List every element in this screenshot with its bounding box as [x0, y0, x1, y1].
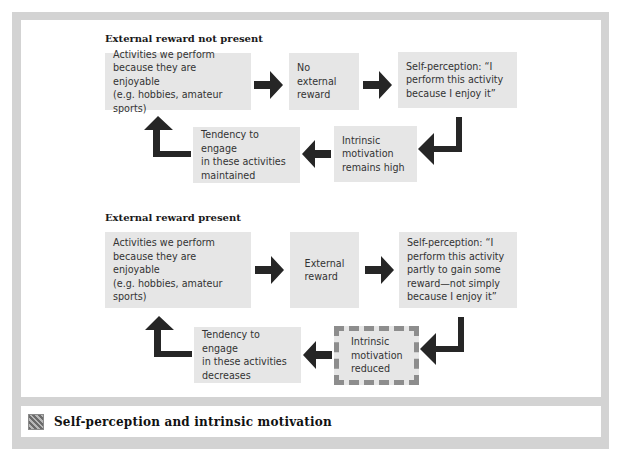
elbow-arrow-left-up-icon	[144, 116, 192, 158]
box-line: in these activities	[202, 355, 293, 369]
box-line: partly to gain some	[407, 263, 504, 277]
box-line: Self-perception: “I	[407, 236, 504, 250]
frame-right-border	[601, 12, 609, 449]
elbow-arrow-left-up-icon	[145, 316, 193, 358]
arrow-right-icon	[365, 256, 395, 284]
box-line: (e.g. hobbies, amateur sports)	[113, 88, 243, 115]
box-tendency: Tendency to engage in these activities m…	[193, 127, 300, 183]
box-line: Intrinsic	[351, 335, 403, 349]
box-line: Intrinsic	[342, 134, 405, 148]
elbow-arrow-down-left-icon	[420, 317, 466, 367]
box-line: Tendency to engage	[201, 128, 292, 155]
arrow-right-icon	[363, 71, 393, 99]
box-line: because I enjoy it”	[406, 87, 503, 101]
box-self-perception: Self-perception: “I perform this activit…	[398, 52, 517, 108]
box-line: reward	[305, 270, 345, 284]
box-activities: Activities we perform because they are e…	[105, 53, 251, 110]
box-line: because I enjoy it”	[407, 290, 504, 304]
frame-bottom-border	[12, 437, 609, 449]
box-line: (e.g. hobbies, amateur sports)	[113, 277, 243, 304]
frame-top-border	[12, 12, 609, 20]
box-intrinsic-highlighted: Intrinsic motivation reduced	[334, 326, 419, 385]
box-line: remains high	[342, 161, 405, 175]
box-line: decreases	[202, 369, 293, 383]
box-intrinsic: Intrinsic motivation remains high	[334, 126, 417, 182]
arrow-right-icon	[255, 256, 285, 284]
box-line: motivation	[351, 349, 403, 363]
arrow-right-icon	[254, 71, 284, 99]
box-line: perform this activity	[406, 73, 503, 87]
box-line: because they are enjoyable	[113, 61, 243, 88]
box-tendency: Tendency to engage in these activities d…	[194, 327, 301, 383]
box-line: Tendency to engage	[202, 328, 293, 355]
box-line: reduced	[351, 362, 403, 376]
box-self-perception: Self-perception: “I perform this activit…	[399, 232, 517, 308]
box-line: Activities we perform	[113, 236, 243, 250]
section-title: External reward not present	[105, 33, 263, 44]
arrow-left-icon	[302, 140, 332, 168]
box-line: External	[305, 257, 345, 271]
box-line: No external	[297, 61, 351, 88]
box-line: Activities we perform	[113, 48, 243, 62]
box-line: maintained	[201, 169, 292, 183]
caption-text: Self-perception and intrinsic motivation	[54, 415, 332, 429]
frame-left-border	[12, 12, 21, 449]
box-line: motivation	[342, 147, 405, 161]
section-title: External reward present	[105, 212, 241, 223]
box-reward: No external reward	[289, 53, 359, 110]
frame-separator	[12, 397, 609, 406]
box-line: Self-perception: “I	[406, 60, 503, 74]
arrow-left-icon	[303, 341, 333, 369]
photo-thumbnail-icon	[28, 414, 44, 430]
box-line: because they are enjoyable	[113, 250, 243, 277]
box-activities: Activities we perform because they are e…	[105, 232, 251, 308]
figure-caption: Self-perception and intrinsic motivation	[21, 406, 601, 437]
elbow-arrow-down-left-icon	[418, 117, 464, 167]
box-line: reward—not simply	[407, 277, 504, 291]
box-line: in these activities	[201, 155, 292, 169]
box-reward: External reward	[290, 232, 359, 308]
box-line: reward	[297, 88, 351, 102]
box-line: perform this activity	[407, 250, 504, 264]
